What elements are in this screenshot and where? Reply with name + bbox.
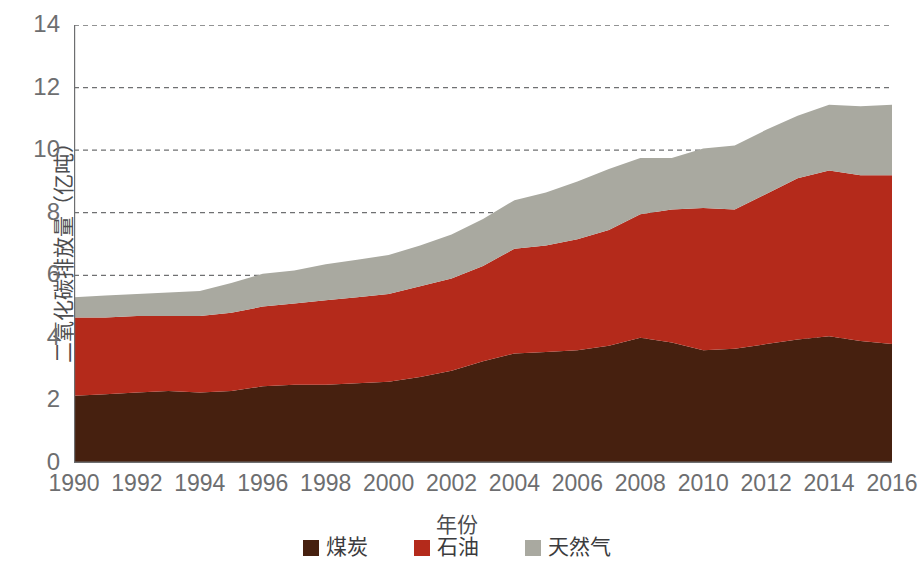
x-axis-title: 年份	[0, 508, 914, 538]
legend-swatch-icon	[525, 540, 541, 556]
x-tick-label: 2008	[605, 470, 675, 497]
x-tick-label: 1994	[165, 470, 235, 497]
legend-label: 煤炭	[326, 537, 368, 558]
y-tick-label: 6	[4, 260, 60, 288]
x-tick-label: 2014	[794, 470, 864, 497]
plot-svg	[74, 25, 892, 463]
y-tick-label: 10	[4, 135, 60, 163]
x-tick-label: 2006	[542, 470, 612, 497]
x-tick-label: 1992	[102, 470, 172, 497]
x-tick-label: 2010	[668, 470, 738, 497]
plot-area	[74, 25, 892, 463]
y-tick-label: 8	[4, 198, 60, 226]
chart-legend: 煤炭石油天然气	[0, 537, 914, 558]
legend-label: 天然气	[548, 537, 611, 558]
y-tick-label: 12	[4, 73, 60, 101]
legend-item[interactable]: 石油	[414, 537, 479, 558]
series-areas	[74, 105, 892, 463]
legend-swatch-icon	[303, 540, 319, 556]
y-tick-label: 4	[4, 323, 60, 351]
legend-swatch-icon	[414, 540, 430, 556]
x-tick-label: 2004	[479, 470, 549, 497]
y-tick-label: 14	[4, 10, 60, 38]
y-tick-label: 2	[4, 385, 60, 413]
y-axis-title: 二氧化碳排放量（亿吨）	[47, 82, 77, 412]
x-tick-label: 2000	[354, 470, 424, 497]
x-tick-label: 2016	[857, 470, 922, 497]
x-tick-label: 1996	[228, 470, 298, 497]
x-tick-label: 2002	[417, 470, 487, 497]
legend-item[interactable]: 天然气	[525, 537, 611, 558]
x-tick-label: 1990	[39, 470, 109, 497]
legend-item[interactable]: 煤炭	[303, 537, 368, 558]
legend-label: 石油	[437, 537, 479, 558]
x-tick-label: 2012	[731, 470, 801, 497]
x-tick-label: 1998	[291, 470, 361, 497]
